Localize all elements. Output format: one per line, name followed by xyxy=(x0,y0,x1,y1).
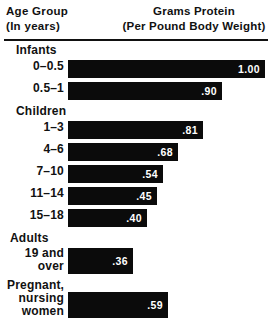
row-label: 4–6 xyxy=(0,143,64,156)
row-label: 15–18 xyxy=(0,209,64,222)
row-label: 11–14 xyxy=(0,187,64,200)
group-heading-infants: Infants xyxy=(16,43,57,57)
age-group-header: Age Group (In years) xyxy=(6,4,126,34)
bar: .90 xyxy=(68,82,222,100)
grams-protein-header-line2: (Per Pound Body Weight) xyxy=(118,19,270,34)
bar-value-label: .40 xyxy=(126,209,142,227)
row-label: 0–0.5 xyxy=(0,60,64,73)
grams-protein-header: Grams Protein (Per Pound Body Weight) xyxy=(118,4,270,34)
row-label: 0.5–1 xyxy=(0,82,64,95)
row-label: 19 and over xyxy=(0,247,64,273)
group-heading-adults: Adults xyxy=(10,231,49,245)
row-label: nursing women xyxy=(0,292,64,318)
age-group-header-line1: Age Group xyxy=(6,4,126,19)
bar: .40 xyxy=(68,209,147,227)
group-heading-children: Children xyxy=(16,104,66,118)
bar: .68 xyxy=(68,143,178,161)
bar: .45 xyxy=(68,187,157,205)
group-heading-pregnant: Pregnant, xyxy=(7,278,64,292)
bar: .36 xyxy=(68,248,133,274)
bar-value-label: .45 xyxy=(136,187,152,205)
bar-value-label: 1.00 xyxy=(238,60,260,78)
bar-value-label: .81 xyxy=(182,121,198,139)
chart-plot-area: Infants 0–0.5 1.00 0.5–1 .90 Children 1–… xyxy=(0,41,272,318)
bar: .54 xyxy=(68,165,163,183)
grams-protein-header-line1: Grams Protein xyxy=(118,4,270,19)
bar-value-label: .68 xyxy=(157,143,173,161)
chart-header: Age Group (In years) Grams Protein (Per … xyxy=(0,0,272,40)
protein-bar-chart: Age Group (In years) Grams Protein (Per … xyxy=(0,0,272,318)
row-label: 1–3 xyxy=(0,121,64,134)
bar-value-label: .59 xyxy=(147,292,163,318)
age-group-header-line2: (In years) xyxy=(6,19,126,34)
bar-value-label: .54 xyxy=(142,165,158,183)
row-label: 7–10 xyxy=(0,165,64,178)
bar-value-label: .90 xyxy=(201,82,217,100)
bar-value-label: .36 xyxy=(112,248,128,274)
bar: .81 xyxy=(68,121,203,139)
bar: 1.00 xyxy=(68,60,265,78)
bar: .59 xyxy=(68,292,168,318)
